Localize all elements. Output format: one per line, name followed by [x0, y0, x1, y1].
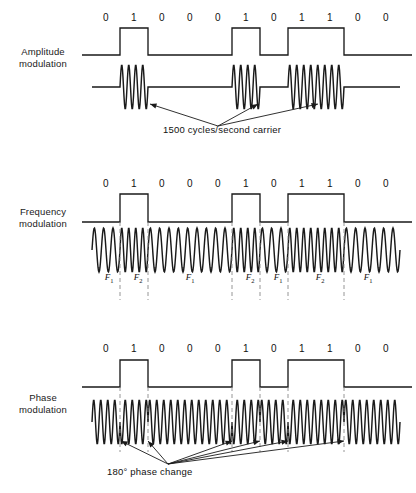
bit-label: 0 — [350, 343, 366, 354]
frequency-label-subscript: 1 — [369, 277, 372, 284]
section-phase — [82, 360, 412, 464]
annotation-arrow — [168, 441, 232, 464]
frequency-label: F1 — [268, 272, 288, 284]
bit-label: 0 — [182, 343, 198, 354]
section-label-line1: Frequency — [0, 206, 86, 218]
annotation-arrow-shaft — [168, 441, 232, 464]
bit-label: 0 — [154, 343, 170, 354]
annotation-arrow-shaft — [121, 441, 168, 464]
bit-label: 1 — [238, 343, 254, 354]
annotation-arrow-head — [150, 104, 157, 109]
bit-label: 0 — [210, 12, 226, 23]
annotation-arrow-shaft — [218, 104, 318, 126]
bit-label: 0 — [378, 343, 394, 354]
annotation-arrow — [121, 441, 168, 464]
carrier-wave-phase — [92, 401, 400, 444]
frequency-label: F1 — [180, 272, 200, 284]
bit-label: 1 — [322, 178, 338, 189]
annotation-phase-change: 180° phase change — [107, 466, 192, 477]
carrier-wave-frequency — [92, 228, 400, 272]
bit-label: 1 — [322, 12, 338, 23]
annotation-arrow-head — [337, 439, 344, 444]
frequency-label: F2 — [310, 272, 330, 284]
frequency-label: F2 — [240, 272, 260, 284]
section-frequency — [82, 194, 412, 300]
bit-label: 0 — [182, 178, 198, 189]
bit-label: 1 — [238, 12, 254, 23]
section-label-line1: Phase — [0, 392, 86, 404]
section-label-frequency: Frequency modulation — [0, 206, 86, 229]
frequency-label-subscript: 2 — [139, 277, 142, 284]
bit-label: 0 — [154, 178, 170, 189]
bit-label: 1 — [294, 178, 310, 189]
bit-label: 0 — [266, 178, 282, 189]
bit-label: 1 — [294, 343, 310, 354]
bit-label: 0 — [350, 12, 366, 23]
bit-label: 0 — [98, 12, 114, 23]
frequency-label: F1 — [99, 272, 119, 284]
square-wave-phase — [82, 360, 412, 387]
section-label-line1: Amplitude — [0, 46, 86, 58]
section-label-line2: modulation — [0, 218, 86, 230]
bit-label: 0 — [98, 343, 114, 354]
annotation-arrow — [150, 104, 218, 127]
bit-label: 1 — [322, 343, 338, 354]
frequency-label-subscript: 1 — [191, 277, 194, 284]
bit-label: 1 — [126, 343, 142, 354]
bit-label: 0 — [210, 343, 226, 354]
square-wave-amplitude — [82, 28, 412, 55]
modulation-figure — [0, 0, 416, 493]
section-label-phase: Phase modulation — [0, 392, 86, 415]
bit-label: 0 — [182, 12, 198, 23]
annotation-arrow-shaft — [150, 104, 218, 126]
frequency-label: F2 — [128, 272, 148, 284]
bit-label: 0 — [210, 178, 226, 189]
bit-label: 1 — [126, 12, 142, 23]
bit-label: 0 — [266, 343, 282, 354]
bit-label: 0 — [378, 12, 394, 23]
annotation-arrow — [148, 441, 168, 464]
bit-label: 1 — [238, 178, 254, 189]
section-amplitude — [82, 28, 412, 126]
bit-label: 0 — [350, 178, 366, 189]
frequency-label-subscript: 1 — [279, 277, 282, 284]
annotation-arrow-shaft — [168, 441, 344, 464]
carrier-wave-amplitude — [92, 66, 400, 109]
bit-label: 0 — [98, 178, 114, 189]
bit-label: 0 — [154, 12, 170, 23]
frequency-label-subscript: 2 — [321, 277, 324, 284]
square-wave-frequency — [82, 194, 412, 222]
bit-label: 1 — [294, 12, 310, 23]
annotation-carrier-frequency: 1500 cycles/second carrier — [163, 124, 281, 135]
frequency-label-subscript: 1 — [110, 277, 113, 284]
frequency-label-subscript: 2 — [251, 277, 254, 284]
annotation-arrow — [218, 103, 318, 126]
bit-label: 0 — [378, 178, 394, 189]
bit-label: 0 — [266, 12, 282, 23]
section-label-amplitude: Amplitude modulation — [0, 46, 86, 69]
section-label-line2: modulation — [0, 58, 86, 70]
annotation-arrow-shaft — [168, 441, 260, 464]
bit-label: 1 — [126, 178, 142, 189]
section-label-line2: modulation — [0, 404, 86, 416]
frequency-label: F1 — [358, 272, 378, 284]
